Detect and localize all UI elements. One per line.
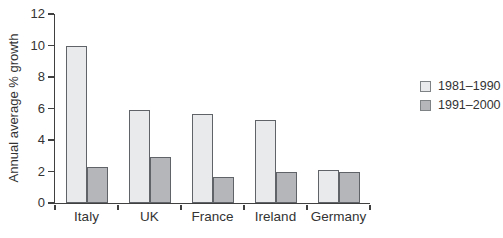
bar [129,110,150,203]
y-axis-tick [48,171,54,173]
y-tick-label: 12 [9,6,45,21]
bar [213,177,234,203]
legend-item: 1991–2000 [420,98,501,112]
y-tick-label: 8 [9,69,45,84]
bar [339,172,360,204]
bar-chart-figure: Annual average % growth 024681012ItalyUK… [0,0,503,238]
bar [255,120,276,203]
x-axis-tick [180,205,182,211]
y-tick-label: 0 [9,195,45,210]
legend-item: 1981–1990 [420,79,501,93]
bar [87,167,108,203]
category-label: UK [140,209,159,224]
y-axis-tick [48,108,54,110]
bar [66,46,87,204]
y-tick-label: 4 [9,132,45,147]
category-label: Germany [311,209,367,224]
legend-swatch [420,81,431,92]
x-axis-tick [117,205,119,211]
bar [192,114,213,203]
y-axis-tick [48,13,54,15]
category-label: Ireland [255,209,296,224]
category-label: France [191,209,233,224]
legend-label: 1981–1990 [438,79,501,93]
bar [276,172,297,204]
legend-label: 1991–2000 [438,98,501,112]
x-axis-tick [369,205,371,211]
bar [150,157,171,203]
y-tick-label: 2 [9,164,45,179]
legend-swatch [420,100,431,111]
y-tick-label: 6 [9,101,45,116]
x-axis-tick [306,205,308,211]
x-axis-tick [243,205,245,211]
y-axis-tick [48,76,54,78]
y-axis-tick [48,45,54,47]
bar [318,170,339,203]
y-axis-tick [48,139,54,141]
legend: 1981–19901991–2000 [420,79,501,112]
category-label: Italy [74,209,99,224]
plot-area: 024681012ItalyUKFranceIrelandGermany [54,14,370,204]
y-tick-label: 10 [9,38,45,53]
y-axis-tick [48,202,54,204]
x-axis-tick [54,205,56,211]
